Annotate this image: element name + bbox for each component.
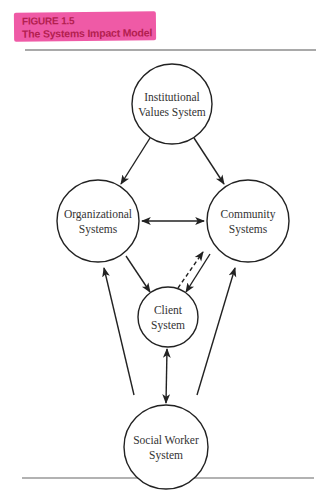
edge-community-to-client (186, 254, 210, 292)
node-social-worker-system (124, 405, 208, 489)
edge-institutional-to-organizational (121, 138, 150, 184)
institutional-label-line1: Institutional (144, 91, 200, 103)
client-label-line2: System (151, 319, 185, 332)
client-label-line1: Client (154, 304, 183, 316)
edge-socialworker-to-organizational (104, 268, 134, 395)
node-community-systems (207, 180, 289, 262)
socialworker-label-line1: Social Worker (133, 434, 199, 446)
community-label-line2: Systems (229, 223, 268, 236)
institutional-label-line2: Values System (138, 106, 205, 119)
edge-socialworker-to-community (197, 268, 235, 395)
community-label-line1: Community (221, 208, 276, 221)
organizational-label-line2: Systems (79, 223, 118, 236)
node-institutional-values-system (132, 64, 212, 144)
edge-client-socialworker (166, 349, 167, 403)
socialworker-label-line2: System (149, 449, 183, 462)
node-client-system (138, 287, 198, 347)
edge-organizational-to-client (126, 256, 150, 292)
edge-institutional-to-community (194, 138, 224, 184)
systems-impact-diagram: Institutional Values System Organization… (0, 0, 334, 494)
organizational-label-line1: Organizational (64, 208, 132, 221)
node-organizational-systems (57, 180, 139, 262)
